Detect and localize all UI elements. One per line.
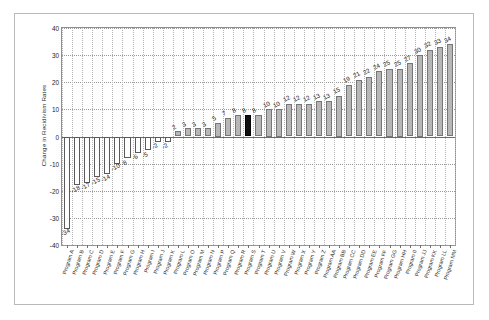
y-tick-label: 10 [52, 106, 59, 113]
x-tick-mark [67, 245, 68, 248]
gridline-horizontal [62, 191, 455, 192]
x-tick-mark [309, 245, 310, 248]
bar[interactable] [185, 128, 191, 136]
bar[interactable] [386, 69, 392, 137]
plot-area: -34-18-17-15-14-10-8-6-5-2-2233357888101… [61, 27, 456, 246]
x-tick-mark [400, 245, 401, 248]
bar[interactable] [276, 109, 282, 136]
bar[interactable] [215, 123, 221, 137]
bar[interactable] [366, 77, 372, 137]
figure-frame: Change in Recidivism Rates -34-18-17-15-… [14, 13, 474, 305]
x-tick-mark [259, 245, 260, 248]
x-tick-mark [228, 245, 229, 248]
bar[interactable] [255, 115, 261, 137]
x-tick-mark [158, 245, 159, 248]
bar[interactable] [286, 104, 292, 137]
y-tick-label: 0 [55, 133, 59, 140]
x-tick-mark [107, 245, 108, 248]
bar[interactable] [195, 128, 201, 136]
y-tick-label: -40 [50, 242, 59, 249]
bar-value-label: -6 [130, 152, 138, 161]
bar-value-label: 25 [382, 59, 391, 68]
bar[interactable] [437, 47, 443, 137]
bar[interactable] [135, 137, 141, 153]
bar[interactable] [84, 137, 90, 183]
x-tick-mark [238, 245, 239, 248]
x-tick-mark [369, 245, 370, 248]
bar[interactable] [245, 115, 251, 137]
x-tick-mark [97, 245, 98, 248]
x-tick-mark [329, 245, 330, 248]
bar-value-label: 2 [171, 123, 177, 131]
y-tick-label: -30 [50, 214, 59, 221]
gridline-horizontal [62, 55, 455, 56]
bar[interactable] [266, 109, 272, 136]
bar[interactable] [175, 131, 181, 136]
x-tick-mark [440, 245, 441, 248]
x-tick-mark [198, 245, 199, 248]
y-tick-label: 20 [52, 79, 59, 86]
x-tick-mark [87, 245, 88, 248]
bar-value-label: 8 [251, 106, 257, 114]
bar-value-label: -8 [120, 158, 128, 167]
bar[interactable] [407, 63, 413, 136]
y-tick-label: 30 [52, 52, 59, 59]
bar[interactable] [336, 96, 342, 137]
y-axis-title: Change in Recidivism Rates [40, 46, 47, 206]
bar-value-label: 13 [322, 91, 331, 100]
x-tick-mark [450, 245, 451, 248]
bar-value-label: 3 [191, 120, 197, 128]
bar[interactable] [205, 128, 211, 136]
bar-value-label: 21 [352, 70, 361, 79]
bar-value-label: 8 [231, 106, 237, 114]
bar[interactable] [104, 137, 110, 175]
bar[interactable] [235, 115, 241, 137]
bar[interactable] [124, 137, 130, 159]
bar[interactable] [316, 101, 322, 136]
bar[interactable] [306, 104, 312, 137]
x-tick-mark [299, 245, 300, 248]
bar[interactable] [356, 80, 362, 137]
x-tick-mark [269, 245, 270, 248]
bar-value-label: 8 [241, 106, 247, 114]
bar[interactable] [64, 137, 70, 229]
y-tick-label: 40 [52, 25, 59, 32]
bar-value-label: 3 [181, 120, 187, 128]
x-tick-mark [128, 245, 129, 248]
bar[interactable] [427, 50, 433, 137]
bar[interactable] [447, 44, 453, 136]
x-tick-mark [148, 245, 149, 248]
bar[interactable] [296, 104, 302, 137]
x-tick-mark [188, 245, 189, 248]
bar[interactable] [94, 137, 100, 178]
bar-value-label: -5 [140, 150, 148, 159]
x-tick-mark [168, 245, 169, 248]
y-tick-label: -10 [50, 160, 59, 167]
bar-value-label: -2 [160, 142, 168, 151]
bar-value-label: -2 [150, 142, 158, 151]
bar-value-label: 5 [211, 115, 217, 123]
x-tick-mark [279, 245, 280, 248]
x-tick-mark [430, 245, 431, 248]
gridline-horizontal [62, 28, 455, 29]
bar[interactable] [225, 118, 231, 137]
x-tick-mark [390, 245, 391, 248]
x-tick-mark [359, 245, 360, 248]
zero-axis-line [62, 137, 455, 138]
bar[interactable] [417, 55, 423, 136]
x-tick-mark [117, 245, 118, 248]
y-tick-label: -20 [50, 187, 59, 194]
x-tick-mark [319, 245, 320, 248]
x-tick-mark [178, 245, 179, 248]
x-tick-mark [339, 245, 340, 248]
gridline-horizontal [62, 218, 455, 219]
bar[interactable] [376, 71, 382, 136]
x-tick-mark [289, 245, 290, 248]
bar[interactable] [326, 101, 332, 136]
bar[interactable] [397, 69, 403, 137]
x-tick-mark [77, 245, 78, 248]
gridline-vertical [455, 28, 456, 245]
x-tick-mark [420, 245, 421, 248]
bar[interactable] [74, 137, 80, 186]
bar[interactable] [346, 85, 352, 137]
